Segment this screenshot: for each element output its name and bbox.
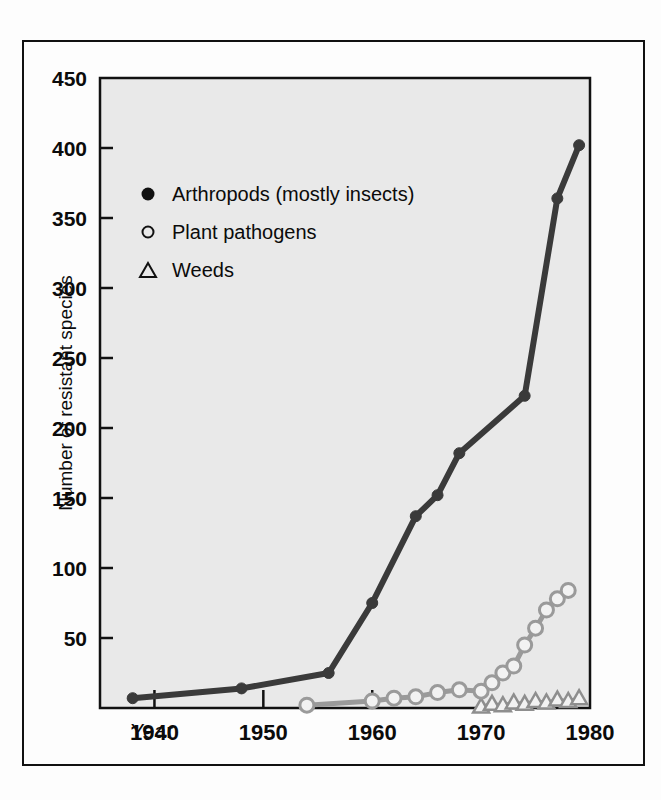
data-point	[387, 691, 401, 705]
data-point	[454, 448, 465, 459]
data-point	[561, 583, 575, 597]
legend-label-0: Arthropods (mostly insects)	[172, 183, 414, 205]
data-point	[365, 694, 379, 708]
data-point	[574, 140, 585, 151]
data-point	[552, 193, 563, 204]
legend-label-1: Plant pathogens	[172, 221, 317, 243]
y-tick-label-100: 100	[52, 557, 87, 580]
data-point	[539, 603, 553, 617]
x-tick-label-1950: 1950	[239, 720, 288, 745]
x-tick-label-1970: 1970	[457, 720, 506, 745]
data-point	[518, 638, 532, 652]
data-point	[367, 598, 378, 609]
x-axis-tick-labels: 19401950196019701980	[130, 720, 615, 745]
data-point	[529, 621, 543, 635]
data-point	[127, 693, 138, 704]
x-axis-title: Year	[131, 719, 173, 742]
y-tick-label-400: 400	[52, 137, 87, 160]
data-point	[236, 683, 247, 694]
legend-marker-filled-circle	[142, 188, 155, 201]
y-tick-label-50: 50	[64, 627, 87, 650]
data-point	[432, 490, 443, 501]
plot-area-background	[100, 78, 590, 708]
figure-container: 50100150200250300350400450 1940195019601…	[0, 0, 661, 800]
legend-label-2: Weeds	[172, 259, 234, 281]
y-tick-label-450: 450	[52, 67, 87, 90]
data-point	[323, 668, 334, 679]
y-tick-label-350: 350	[52, 207, 87, 230]
data-point	[409, 690, 423, 704]
data-point	[300, 698, 314, 712]
data-point	[519, 390, 530, 401]
y-axis-title: Number of resistant species	[55, 275, 76, 511]
resistant-species-line-chart: 50100150200250300350400450 1940195019601…	[0, 0, 661, 800]
x-tick-label-1980: 1980	[566, 720, 615, 745]
data-point	[507, 659, 521, 673]
x-tick-label-1960: 1960	[348, 720, 397, 745]
data-point	[452, 683, 466, 697]
data-point	[431, 686, 445, 700]
data-point	[410, 511, 421, 522]
